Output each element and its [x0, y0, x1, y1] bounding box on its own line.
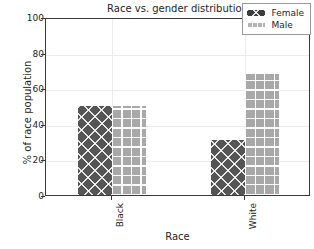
x-axis-label: Race: [45, 231, 310, 242]
y-tick-mark: [41, 89, 45, 90]
y-tick-mark: [41, 160, 45, 161]
legend-label-male: Male: [271, 20, 292, 30]
y-tick-label: 0: [14, 191, 44, 201]
chart-legend: Female Male: [242, 3, 311, 35]
gridline-horizontal: [46, 55, 309, 56]
y-tick-label: 40: [14, 120, 44, 130]
x-tick-mark: [244, 196, 245, 200]
x-tick-label: Black: [115, 203, 125, 227]
x-tick-mark: [111, 196, 112, 200]
y-tick-mark: [41, 125, 45, 126]
legend-item-female: Female: [247, 7, 304, 19]
y-tick-mark: [41, 18, 45, 19]
bar-male-white: [245, 74, 279, 195]
legend-label-female: Female: [271, 8, 304, 18]
y-tick-label: 60: [14, 84, 44, 94]
bar-female-white: [211, 140, 245, 195]
legend-swatch-female-icon: [247, 10, 265, 16]
y-tick-label: 100: [14, 13, 44, 23]
chart-figure: Race vs. gender distribution % of race p…: [0, 0, 314, 249]
legend-item-male: Male: [247, 19, 304, 31]
x-tick-label: White: [248, 203, 258, 229]
y-tick-label: 80: [14, 49, 44, 59]
plot-area: [45, 18, 310, 196]
y-tick-mark: [41, 196, 45, 197]
bar-female-black: [78, 106, 112, 195]
y-tick-mark: [41, 54, 45, 55]
bar-male-black: [112, 106, 146, 195]
legend-swatch-male-icon: [247, 22, 265, 28]
y-tick-label: 20: [14, 155, 44, 165]
